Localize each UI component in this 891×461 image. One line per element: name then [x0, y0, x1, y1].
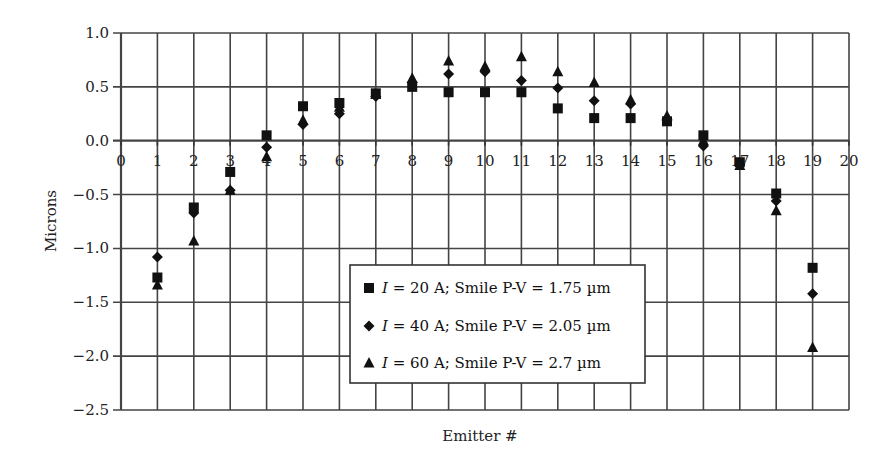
data-point-triangle — [552, 66, 563, 77]
x-axis-title: Emitter # — [442, 427, 517, 445]
y-tick-label: −0.5 — [73, 186, 109, 204]
data-point-triangle — [662, 110, 673, 121]
scatter-chart: 01234567891011121314151617181920 1.00.50… — [0, 0, 891, 461]
legend: I = 20 A; Smile P-V = 1.75 µmI = 40 A; S… — [350, 265, 645, 383]
data-point-square — [444, 87, 454, 97]
x-tick-label: 19 — [803, 152, 822, 170]
x-tick-label: 14 — [621, 152, 640, 170]
legend-marker-square — [364, 283, 374, 293]
data-point-square — [553, 103, 563, 113]
x-tick-label: 18 — [767, 152, 786, 170]
legend-item: I = 60 A; Smile P-V = 2.7 µm — [364, 354, 602, 372]
data-point-triangle — [443, 55, 454, 66]
x-tick-label: 0 — [116, 152, 126, 170]
data-point-square — [626, 113, 636, 123]
data-point-square — [516, 87, 526, 97]
y-tick-label: 0.0 — [85, 132, 109, 150]
data-point-triangle — [516, 51, 527, 62]
data-point-square — [589, 113, 599, 123]
y-tick-label: −1.5 — [73, 293, 109, 311]
data-point-square — [298, 101, 308, 111]
data-point-triangle — [589, 77, 600, 88]
x-tick-label: 8 — [407, 152, 417, 170]
data-point-triangle — [807, 342, 818, 353]
data-point-diamond — [552, 82, 563, 93]
legend-label: I = 40 A; Smile P-V = 2.05 µm — [381, 317, 611, 335]
data-point-diamond — [807, 288, 818, 299]
x-tick-label: 1 — [153, 152, 163, 170]
data-point-square — [262, 130, 272, 140]
legend-item: I = 40 A; Smile P-V = 2.05 µm — [364, 317, 611, 335]
y-tick-label: −1.0 — [73, 239, 109, 257]
x-tick-label: 10 — [475, 152, 494, 170]
legend-label: I = 20 A; Smile P-V = 1.75 µm — [381, 279, 611, 297]
data-point-diamond — [516, 75, 527, 86]
data-point-triangle — [480, 60, 491, 70]
x-tick-label: 9 — [444, 152, 454, 170]
x-tick-label: 15 — [657, 152, 676, 170]
x-tick-label: 2 — [189, 152, 199, 170]
y-tick-labels: 1.00.50.0−0.5−1.0−1.5−2.0−2.5 — [73, 24, 109, 419]
x-tick-label: 6 — [335, 152, 345, 170]
y-tick-label: 0.5 — [85, 78, 109, 96]
data-point-triangle — [625, 94, 636, 105]
data-point-diamond — [443, 68, 454, 79]
legend-label: I = 60 A; Smile P-V = 2.7 µm — [381, 354, 601, 372]
legend-item: I = 20 A; Smile P-V = 1.75 µm — [364, 279, 611, 297]
y-axis-title: Microns — [42, 190, 60, 252]
data-point-triangle — [771, 205, 782, 216]
x-tick-label: 16 — [694, 152, 713, 170]
data-point-diamond — [589, 95, 600, 106]
data-point-diamond — [152, 252, 163, 263]
y-tick-label: 1.0 — [85, 24, 109, 42]
data-point-square — [225, 167, 235, 177]
y-tick-label: −2.5 — [73, 401, 109, 419]
data-point-square — [480, 87, 490, 97]
data-point-triangle — [298, 114, 309, 125]
data-point-triangle — [188, 235, 199, 246]
x-tick-label: 7 — [371, 152, 381, 170]
data-point-square — [808, 263, 818, 273]
x-tick-label: 12 — [548, 152, 567, 170]
y-tick-label: −2.0 — [73, 347, 109, 365]
x-tick-label: 5 — [298, 152, 308, 170]
x-tick-label: 20 — [839, 152, 858, 170]
x-tick-label: 11 — [512, 152, 531, 170]
data-point-triangle — [407, 72, 418, 83]
x-tick-label: 13 — [585, 152, 604, 170]
